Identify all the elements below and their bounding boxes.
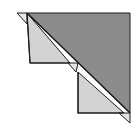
diagram-canvas	[0, 0, 136, 128]
geometric-figure	[0, 0, 136, 128]
